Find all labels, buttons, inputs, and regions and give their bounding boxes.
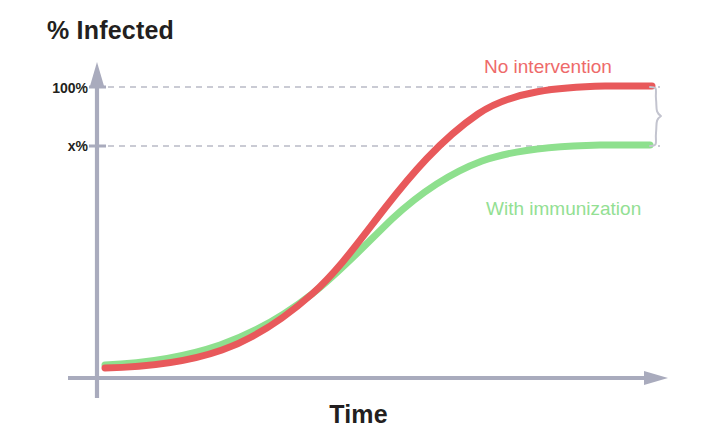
- x-axis-arrow-icon: [644, 371, 668, 385]
- x-axis: [68, 371, 668, 385]
- x-axis-title: Time: [0, 400, 717, 429]
- series-line-with-immunization: [105, 145, 650, 365]
- gridlines: [97, 87, 660, 146]
- chart-figure: % Infected Time 100% x% No intervention …: [0, 0, 717, 437]
- gap-bracket: [650, 87, 661, 146]
- series-line-no-intervention: [105, 86, 652, 368]
- series-label-with-immunization: With immunization: [486, 198, 641, 220]
- y-axis-arrow-icon: [90, 62, 104, 86]
- y-tick-label-x-percent: x%: [8, 138, 88, 154]
- y-tick-label-100-percent: 100%: [8, 80, 88, 96]
- series-label-no-intervention: No intervention: [484, 56, 612, 78]
- y-axis-title: % Infected: [47, 16, 174, 45]
- y-axis: [89, 62, 106, 398]
